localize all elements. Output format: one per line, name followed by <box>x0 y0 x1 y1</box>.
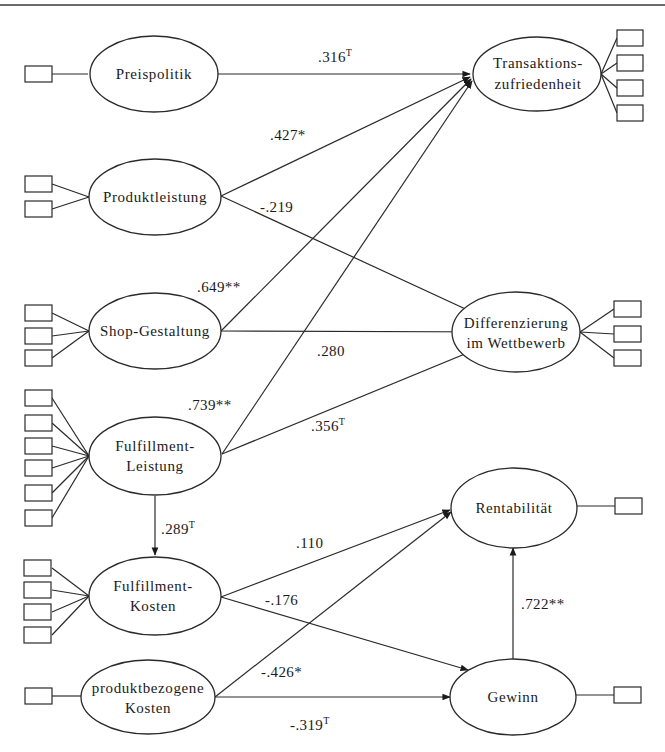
indicator-fleistung-5 <box>25 485 52 501</box>
indicator-preispolitik-1 <box>25 66 52 82</box>
indicator-transaktion-3 <box>617 80 643 96</box>
indicator-fkosten-1 <box>24 560 51 576</box>
indicator-produktleistung-2 <box>25 201 52 217</box>
construct-rentabilitaet: Rentabilität <box>451 468 577 548</box>
label-differenzierung-line1: Differenzierung <box>464 315 569 331</box>
label-produktleistung: Produktleistung <box>103 189 207 205</box>
indicator-transaktion-2 <box>617 55 643 71</box>
indicator-rentabilitaet-1 <box>615 498 642 514</box>
path-fleistung-transaktion <box>222 81 472 454</box>
indicator-fleistung-3 <box>25 438 52 454</box>
label-fleistung-line1: Fulfillment- <box>115 438 195 454</box>
indicator-shop-2 <box>25 328 52 344</box>
indicator-fleistung-4 <box>25 460 52 476</box>
construct-fulfillment-kosten: Fulfillment- Kosten <box>89 557 221 635</box>
coef-fleistung-transaktion: .739** <box>188 397 232 413</box>
indicator-differenzierung-2 <box>614 326 641 342</box>
path-pkosten-rentabilitaet <box>215 512 451 697</box>
indicator-produktleistung-1 <box>25 176 52 192</box>
construct-produktleistung: Produktleistung <box>89 159 221 235</box>
coef-shop-differenzierung: .280 <box>317 343 345 359</box>
path-coefficients: .316T .427* -.219 .649** .280 .739** .35… <box>161 47 565 733</box>
indicator-fleistung-2 <box>25 415 52 431</box>
construct-shop-gestaltung: Shop-Gestaltung <box>89 293 221 369</box>
label-differenzierung-line2: im Wettbewerb <box>466 335 565 351</box>
label-transaktion-line2: zufriedenheit <box>495 76 582 92</box>
construct-produktbezogene-kosten: produktbezogene Kosten <box>81 660 215 734</box>
indicator-shop-3 <box>25 350 52 366</box>
path-fkosten-gewinn <box>221 597 468 670</box>
label-gewinn: Gewinn <box>487 689 538 705</box>
indicator-fleistung-6 <box>25 510 52 526</box>
label-transaktion-line1: Transaktions- <box>493 55 583 71</box>
indicator-fleistung-1 <box>25 390 52 406</box>
indicator-fkosten-2 <box>24 582 51 598</box>
coef-fkosten-gewinn: -.176 <box>265 592 298 608</box>
indicator-fkosten-4 <box>24 627 51 643</box>
label-fkosten-line2: Kosten <box>130 598 176 614</box>
indicator-transaktion-1 <box>617 30 643 46</box>
indicator-transaktion-4 <box>617 105 643 121</box>
label-fleistung-line2: Leistung <box>126 458 183 474</box>
coef-preispolitik-transaktion: .316T <box>318 47 352 65</box>
indicator-gewinn-1 <box>614 687 641 703</box>
coef-pkosten-rentabilitaet: -.426* <box>261 664 302 680</box>
label-shop-gestaltung: Shop-Gestaltung <box>100 323 210 339</box>
indicator-fkosten-3 <box>24 604 51 620</box>
path-diagram: Preispolitik Produktleistung Shop-Gestal… <box>0 0 665 752</box>
construct-transaktionszufriedenheit: Transaktions- zufriedenheit <box>473 37 601 111</box>
construct-gewinn: Gewinn <box>450 659 576 735</box>
label-pkosten-line2: Kosten <box>125 700 171 716</box>
indicator-pkosten-1 <box>25 688 52 704</box>
construct-differenzierung: Differenzierung im Wettbewerb <box>452 292 580 372</box>
indicator-differenzierung-3 <box>614 350 641 366</box>
label-fkosten-line1: Fulfillment- <box>113 578 193 594</box>
coef-produktleistung-transaktion: .427* <box>270 127 306 143</box>
construct-preispolitik: Preispolitik <box>90 36 218 112</box>
path-shop-transaktion <box>221 79 471 331</box>
coef-produktleistung-differenzierung: -.219 <box>260 199 293 215</box>
label-preispolitik: Preispolitik <box>116 66 192 82</box>
label-pkosten-line1: produktbezogene <box>92 680 204 696</box>
path-fkosten-rentabilitaet <box>221 510 450 597</box>
label-rentabilitaet: Rentabilität <box>475 500 552 516</box>
coef-pkosten-gewinn: -.319T <box>290 715 330 733</box>
coef-shop-transaktion: .649** <box>197 279 241 295</box>
indicator-differenzierung-1 <box>614 301 641 317</box>
path-produktleistung-transaktion <box>221 77 470 196</box>
indicator-shop-1 <box>25 305 52 321</box>
coef-fleistung-differenzierung: .356T <box>311 416 345 434</box>
coef-fleistung-fkosten: .289T <box>161 519 195 537</box>
construct-fulfillment-leistung: Fulfillment- Leistung <box>89 417 221 495</box>
coef-fkosten-rentabilitaet: .110 <box>296 535 323 551</box>
coef-gewinn-rentabilitaet: .722** <box>521 596 565 612</box>
